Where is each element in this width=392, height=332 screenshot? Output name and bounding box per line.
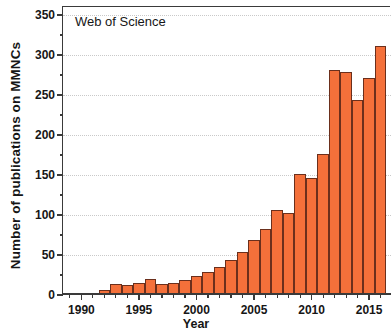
y-tick-minor [60,74,64,75]
bar [145,279,157,294]
y-tick-mark [57,14,63,15]
y-tick-label: 0 [48,288,55,302]
y-tick-mark [57,134,63,135]
bar [329,70,341,294]
bar [340,72,352,294]
x-tick-label: 1995 [126,303,153,317]
bar [225,260,237,294]
x-tick-label: 2005 [241,303,268,317]
plot-area: Web of Science 050100150200250300350 199… [62,6,390,294]
y-tick-mark [57,94,63,95]
y-tick-minor [60,114,64,115]
bar [214,267,226,294]
bar [375,46,387,294]
y-tick-minor [60,234,64,235]
bar [202,272,214,294]
y-tick-mark [57,214,63,215]
y-tick-minor [60,154,64,155]
y-tick-mark [57,54,63,55]
y-tick-label: 300 [35,48,55,62]
bar [168,283,180,294]
bar [306,178,318,294]
gridline [63,55,391,57]
y-tick-label: 100 [35,208,55,222]
y-tick-minor [60,34,64,35]
y-tick-minor [60,194,64,195]
x-tick-mark [253,294,254,300]
x-tick-label: 2010 [298,303,325,317]
x-tick-label: 2000 [183,303,210,317]
chart-figure: Number of publications on MMNCs Year Web… [0,0,392,332]
y-tick-label: 150 [35,168,55,182]
bar [283,213,295,294]
x-axis-line [62,293,391,294]
x-tick-mark [368,294,369,300]
y-tick-minor [60,274,64,275]
x-tick-mark [196,294,197,300]
bar [294,174,306,294]
x-tick-mark [138,294,139,300]
x-axis-title: Year [0,317,392,331]
bar [191,276,203,294]
bar [363,78,375,294]
y-tick-label: 200 [35,128,55,142]
gridline [63,15,391,17]
bar [237,252,249,294]
bar [271,210,283,294]
bar [133,283,145,294]
y-axis-title: Number of publications on MMNCs [8,6,23,306]
y-tick-label: 350 [35,8,55,22]
bar [179,280,191,294]
x-tick-label: 1990 [68,303,95,317]
x-tick-label: 2015 [356,303,383,317]
bar [352,100,364,294]
bar [317,154,329,294]
x-tick-mark [81,294,82,300]
bar [260,229,272,294]
x-tick-mark [311,294,312,300]
y-tick-label: 250 [35,88,55,102]
y-tick-label: 50 [42,248,55,262]
y-tick-mark [57,254,63,255]
y-tick-mark [57,174,63,175]
bar [248,240,260,294]
